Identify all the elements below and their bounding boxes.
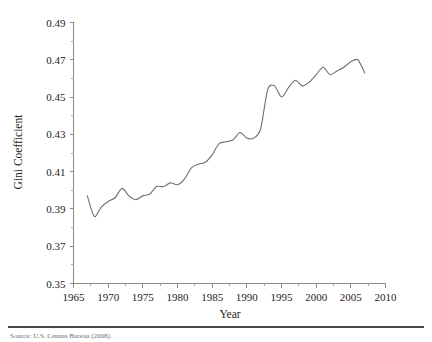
x-tick-label: 1975 <box>132 291 155 303</box>
x-tick-label: 1965 <box>63 291 86 303</box>
y-tick-label: 0.43 <box>46 128 66 140</box>
y-axis-tick-labels: 0.350.370.390.410.430.450.470.49 <box>46 17 66 290</box>
x-tick-label: 1970 <box>97 291 120 303</box>
x-tick-label: 2010 <box>375 291 398 303</box>
source-note: Source: U.S. Census Bureau (2008). <box>10 331 430 341</box>
source-divider-rule <box>8 326 424 328</box>
y-tick-label: 0.49 <box>46 17 66 29</box>
x-tick-label: 1990 <box>236 291 259 303</box>
x-tick-label: 1985 <box>201 291 224 303</box>
y-axis-title: Gini Coefficient <box>12 114 24 190</box>
x-tick-label: 1995 <box>271 291 294 303</box>
y-tick-label: 0.41 <box>46 166 65 178</box>
x-axis-title: Year <box>219 308 240 320</box>
x-tick-label: 1980 <box>167 291 190 303</box>
y-tick-label: 0.35 <box>46 278 66 290</box>
y-tick-label: 0.47 <box>46 54 66 66</box>
gini-coefficient-figure: 0.350.370.390.410.430.450.470.49 1965197… <box>0 0 432 342</box>
x-tick-label: 2000 <box>305 291 328 303</box>
x-axis-tick-labels: 1965197019751980198519901995200020052010 <box>63 291 398 303</box>
y-tick-label: 0.45 <box>46 91 66 103</box>
y-tick-label: 0.37 <box>46 240 66 252</box>
y-axis: 0.350.370.390.410.430.450.470.49 <box>46 17 73 290</box>
data-series-line <box>87 59 364 216</box>
line-chart-canvas: 0.350.370.390.410.430.450.470.49 1965197… <box>0 0 432 342</box>
x-axis: 1965197019751980198519901995200020052010 <box>63 284 398 303</box>
x-tick-label: 2005 <box>340 291 363 303</box>
y-tick-label: 0.39 <box>46 203 66 215</box>
